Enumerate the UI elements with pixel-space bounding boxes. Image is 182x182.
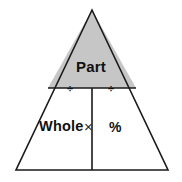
- percent-triangle-diagram: Part ÷ ÷ Whole × %: [0, 0, 182, 182]
- divide-right-icon: ÷: [108, 83, 114, 94]
- whole-label: Whole: [39, 119, 84, 134]
- part-label: Part: [0, 59, 182, 74]
- percent-label: %: [109, 120, 121, 134]
- multiply-icon: ×: [84, 119, 93, 134]
- divide-left-icon: ÷: [67, 83, 73, 94]
- triangle-graphic: [0, 0, 182, 182]
